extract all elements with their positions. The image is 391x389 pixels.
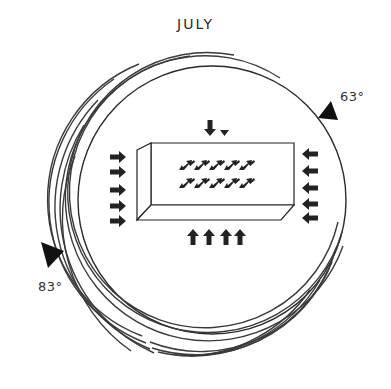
stress-diagram [0,0,391,389]
angle-label-63: 63° [340,89,365,104]
block [137,143,294,220]
top-arrow [204,120,229,136]
left-compression-arrows [110,151,126,227]
marker-63-triangle [318,101,338,120]
concentric-arcs-lower [150,252,335,356]
angle-label-83: 83° [38,279,63,294]
right-compression-arrows [302,148,318,224]
small-down-triangle [220,130,229,136]
bottom-compression-arrows [187,229,246,245]
